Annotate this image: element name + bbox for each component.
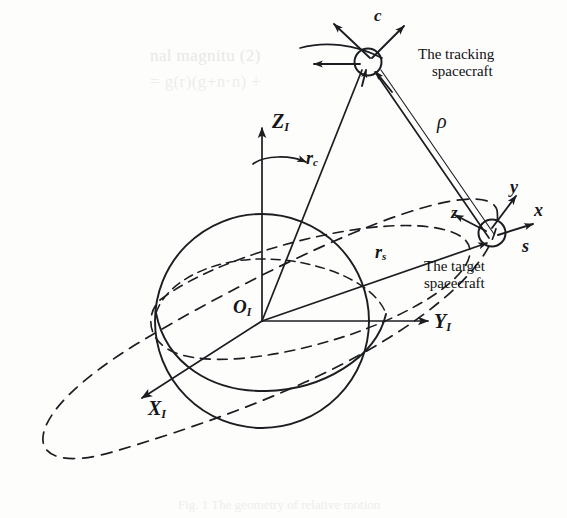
- label-vector-rho: ρ: [437, 110, 447, 133]
- label-target-axis-y: y: [510, 177, 518, 198]
- label-vector-rs: rs: [375, 242, 386, 263]
- vector-rc[interactable]: [262, 70, 362, 321]
- orbit-ellipse: [43, 199, 498, 459]
- label-target-body-frame: s: [522, 236, 529, 257]
- callout-target-line-2: spacecraft: [424, 275, 485, 292]
- label-axis-y-inertial: YI: [434, 310, 451, 335]
- label-tracking-body-frame: c: [374, 6, 382, 26]
- vector-rho[interactable]: [375, 70, 494, 238]
- callout-target-spacecraft: The target spacecraft: [424, 258, 485, 292]
- axis-x-inertial[interactable]: [142, 321, 262, 398]
- label-axis-z-inertial: ZI: [272, 110, 289, 135]
- label-vector-rc: rc: [306, 148, 318, 169]
- callout-target-line-1: The target: [424, 258, 485, 275]
- label-target-axis-x: x: [534, 200, 543, 221]
- callout-tracking-line-2: spacecraft: [418, 63, 494, 80]
- equatorial-plane-ellipse: [151, 226, 470, 360]
- label-target-axis-z: z: [451, 203, 458, 223]
- spin-arrow-icon: [253, 157, 306, 164]
- figure-root: nal magnitu (2) = g(r)(g+n·n) + Fig. 1 T…: [0, 0, 567, 518]
- label-axis-x-inertial: XI: [148, 397, 166, 422]
- label-origin-inertial: OI: [233, 296, 251, 320]
- callout-tracking-spacecraft: The tracking spacecraft: [418, 46, 494, 80]
- callout-tracking-line-1: The tracking: [418, 46, 494, 63]
- earth-equator-hidden: [156, 259, 386, 314]
- tracking-spacecraft[interactable]: [300, 24, 404, 92]
